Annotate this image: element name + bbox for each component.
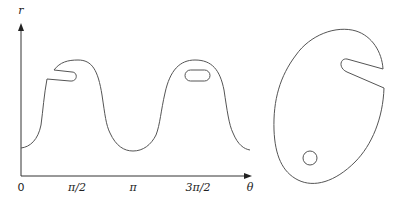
diagram-canvas: [0, 0, 399, 202]
x-tick-3pi-half: 3π/2: [186, 181, 211, 194]
blob-shape: [274, 29, 384, 183]
oval-hole: [185, 70, 210, 81]
x-axis-label: θ: [247, 181, 254, 194]
x-tick-pi-half: π/2: [68, 181, 86, 194]
y-axis-label: r: [18, 4, 23, 17]
r-theta-curve: [21, 60, 250, 151]
x-tick-0: 0: [18, 181, 25, 194]
circle-hole: [303, 151, 317, 165]
x-tick-pi: π: [129, 181, 136, 194]
